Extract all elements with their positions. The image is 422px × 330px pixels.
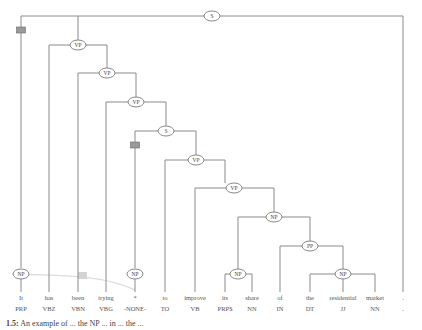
pos-tag: NN: [370, 305, 380, 312]
node-vp3[interactable]: VP: [128, 97, 144, 107]
leaf-word: its: [222, 294, 229, 301]
pos-tag: JJ: [340, 305, 346, 312]
edges-pp: [280, 246, 343, 292]
leaf-word: It: [19, 294, 23, 301]
svg-text:PP: PP: [307, 243, 313, 249]
pos-tag: VBZ: [43, 305, 56, 312]
svg-text:VP: VP: [132, 99, 139, 105]
figure-caption: 1.5: An example of ... the NP ... in ...…: [6, 319, 143, 328]
caption-text: An example of ... the NP ... in ... the …: [20, 319, 143, 328]
pos-tag: VB: [190, 305, 200, 312]
leaf-word: to: [162, 294, 167, 301]
pos-tag: IN: [277, 305, 284, 312]
leaf-word: *: [133, 294, 136, 301]
pos-tag: PRP$: [218, 305, 234, 312]
leaf-word: been: [72, 294, 85, 301]
svg-text:NP: NP: [270, 214, 277, 220]
leaf-word: of: [277, 294, 283, 301]
edges-vp2: [78, 73, 136, 292]
pos-tag: VBN: [71, 305, 85, 312]
node-vp2[interactable]: VP: [99, 68, 115, 78]
leaf-word: share: [245, 294, 259, 301]
pos-tag: TO: [161, 305, 170, 312]
node-s-root[interactable]: S: [204, 11, 220, 21]
leaf-tags: PRP VBZ VBN VBG -NONE- TO VB PRP$ NN IN …: [15, 305, 404, 312]
leaf-words: It has been trying * to improve its shar…: [19, 294, 404, 301]
embedded-subject-marker-box: [131, 142, 140, 148]
pos-tag: VBG: [99, 305, 113, 312]
node-vp5[interactable]: VP: [226, 183, 242, 193]
node-vp1[interactable]: VP: [70, 40, 86, 50]
node-np-trace[interactable]: NP: [127, 269, 143, 279]
svg-text:NP: NP: [234, 271, 241, 277]
leaf-word: has: [45, 294, 54, 301]
leaf-word: market: [366, 294, 384, 301]
subject-marker-box: [17, 27, 26, 33]
node-vp4[interactable]: VP: [188, 155, 204, 165]
node-np-the-residential-market[interactable]: NP: [335, 269, 351, 279]
leaf-word: improve: [184, 294, 206, 301]
svg-text:NP: NP: [17, 271, 24, 277]
node-s-embedded[interactable]: S: [158, 126, 174, 136]
svg-text:VP: VP: [192, 157, 199, 163]
svg-text:NP: NP: [339, 271, 346, 277]
node-np-subject[interactable]: NP: [13, 269, 29, 279]
leaf-word: the: [306, 294, 314, 301]
leaf-word: residential: [329, 294, 356, 301]
edges-np-object: [238, 217, 310, 269]
parse-tree-diagram: S VP VP VP S VP VP NP PP NP NP NP: [0, 0, 422, 330]
pos-tag: NN: [247, 305, 257, 312]
figure-number: 1.5:: [6, 319, 19, 328]
node-pp[interactable]: PP: [302, 241, 318, 251]
svg-text:S: S: [210, 13, 213, 19]
trace-marker-box: [78, 272, 87, 279]
svg-text:VP: VP: [230, 185, 237, 191]
leaf-word: .: [402, 294, 404, 301]
pos-tag: PRP: [15, 305, 27, 312]
pos-tag: DT: [306, 305, 315, 312]
svg-text:NP: NP: [131, 271, 138, 277]
svg-text:VP: VP: [103, 70, 110, 76]
leaf-word: trying: [98, 294, 114, 301]
node-np-object[interactable]: NP: [266, 212, 282, 222]
pos-tag: .: [402, 305, 404, 312]
svg-text:VP: VP: [74, 42, 81, 48]
node-np-its-share[interactable]: NP: [230, 269, 246, 279]
pos-tag: -NONE-: [124, 305, 146, 312]
svg-text:S: S: [164, 128, 167, 134]
